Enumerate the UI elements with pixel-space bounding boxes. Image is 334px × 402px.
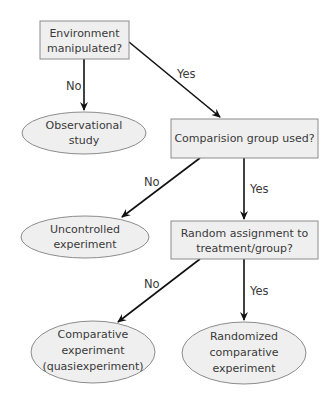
node-text-line: Observational — [46, 119, 123, 132]
edge-label-yes: Yes — [249, 182, 269, 196]
node-text-line: Randomized — [210, 330, 278, 343]
edge-label-yes: Yes — [176, 67, 196, 81]
edge-env-to-comparison: Yes — [129, 42, 220, 117]
node-text-line: Uncontrolled — [50, 223, 120, 236]
node-random-assignment: Random assignment to treatment/group? — [171, 221, 318, 259]
node-observational-study: Observational study — [22, 112, 146, 154]
edge-comparison-to-random: Yes — [244, 158, 269, 219]
edge-label-no: No — [144, 277, 160, 291]
edge-label-no: No — [66, 79, 82, 93]
edge-label-yes: Yes — [249, 284, 269, 298]
node-randomized-comparative-experiment: Randomized comparative experiment — [182, 322, 306, 384]
flowchart-canvas: No Yes No Yes No Yes Environment manipul… — [0, 0, 334, 402]
node-text-line: experiment — [212, 362, 276, 375]
node-text-line: study — [69, 134, 100, 147]
edge-comparison-to-uncontrolled: No — [122, 158, 200, 217]
node-text-line: (quasiexperiment) — [42, 360, 143, 373]
node-text-line: Environment — [49, 27, 120, 40]
node-environment-manipulated: Environment manipulated? — [40, 21, 129, 59]
edge-env-to-observational: No — [66, 59, 84, 110]
node-comparative-experiment: Comparative experiment (quasiexperiment) — [31, 321, 155, 383]
node-text-line: Comparision group used? — [174, 132, 314, 145]
edge-label-no: No — [144, 175, 160, 189]
node-uncontrolled-experiment: Uncontrolled experiment — [21, 216, 149, 258]
node-text-line: Comparative — [58, 328, 129, 341]
node-text-line: treatment/group? — [196, 242, 293, 255]
node-text-line: comparative — [209, 346, 278, 359]
edge-random-to-comparative: No — [118, 259, 200, 322]
node-text-line: manipulated? — [47, 42, 122, 55]
node-text-line: Random assignment to — [181, 227, 309, 240]
node-text-line: experiment — [53, 238, 117, 251]
node-comparison-group-used: Comparision group used? — [171, 119, 318, 158]
edge-random-to-randomized: Yes — [244, 259, 269, 320]
node-text-line: experiment — [61, 344, 125, 357]
